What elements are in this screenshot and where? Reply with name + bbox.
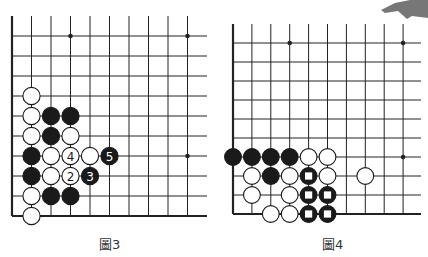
- star-point: [401, 155, 406, 160]
- black-stone: [262, 168, 279, 185]
- go-board-4: [225, 24, 421, 222]
- black-stone: [42, 187, 59, 204]
- white-stone: [23, 207, 40, 224]
- square-marker: [305, 172, 312, 179]
- diagram-caption-4: 圖4: [322, 234, 343, 253]
- white-stone: [319, 168, 336, 185]
- black-stone: [244, 149, 261, 166]
- move-number-label: 4: [67, 150, 75, 164]
- white-stone: [42, 167, 59, 184]
- diagram-caption-3: 圖3: [99, 234, 120, 253]
- star-point: [185, 154, 190, 159]
- white-stone: [262, 206, 279, 223]
- white-stone: [62, 127, 79, 144]
- black-stone: [225, 149, 242, 166]
- black-stone: [62, 187, 79, 204]
- white-stone: [244, 187, 261, 204]
- star-point: [185, 34, 190, 39]
- square-marker: [305, 210, 312, 217]
- go-board-3: 4235: [12, 16, 207, 225]
- white-stone: [244, 168, 261, 185]
- white-stone: [300, 149, 317, 166]
- black-stone: [281, 149, 298, 166]
- star-point: [68, 34, 73, 39]
- square-marker: [305, 191, 312, 198]
- move-number-label: 2: [67, 170, 75, 184]
- white-stone: [23, 127, 40, 144]
- white-stone: [23, 87, 40, 104]
- go-diagrams: 4235: [0, 0, 428, 257]
- star-point: [401, 41, 406, 46]
- white-stone: [81, 147, 98, 164]
- white-stone: [23, 187, 40, 204]
- white-stone: [23, 107, 40, 124]
- white-stone: [281, 187, 298, 204]
- black-stone: [23, 147, 40, 164]
- white-stone: [357, 168, 374, 185]
- square-marker: [324, 191, 331, 198]
- black-stone: [42, 107, 59, 124]
- square-marker: [324, 210, 331, 217]
- black-stone: [262, 149, 279, 166]
- white-stone: [42, 147, 59, 164]
- white-stone: [319, 149, 336, 166]
- move-number-label: 5: [106, 150, 114, 164]
- move-number-label: 3: [86, 170, 94, 184]
- star-point: [287, 41, 292, 46]
- white-stone: [281, 206, 298, 223]
- black-stone: [62, 107, 79, 124]
- white-stone: [281, 168, 298, 185]
- decorative-figure-shape: [381, 0, 428, 19]
- black-stone: [42, 127, 59, 144]
- black-stone: [23, 167, 40, 184]
